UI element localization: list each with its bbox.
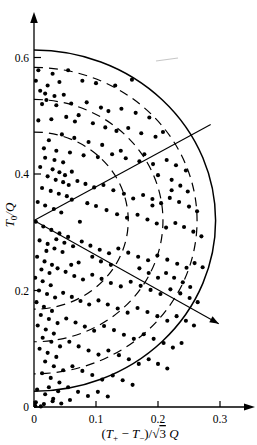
- data-point: [72, 274, 76, 278]
- data-point: [49, 340, 53, 344]
- data-point: [78, 299, 82, 303]
- data-point: [73, 120, 77, 124]
- data-point: [85, 100, 89, 104]
- data-point: [182, 225, 186, 229]
- data-point: [77, 260, 81, 264]
- x-axis-tick-labels: 00.10.20.3: [31, 413, 227, 425]
- data-point: [192, 323, 196, 327]
- data-point: [191, 230, 195, 234]
- data-point: [131, 196, 135, 200]
- data-point: [155, 254, 159, 258]
- data-point: [164, 271, 168, 275]
- data-point: [49, 283, 53, 287]
- data-point: [113, 83, 117, 87]
- data-point: [195, 209, 199, 213]
- data-point: [51, 399, 55, 403]
- data-point: [45, 292, 49, 296]
- data-point: [52, 332, 56, 336]
- x-tick-label: 0.2: [151, 413, 166, 425]
- data-point: [34, 79, 38, 83]
- data-point: [174, 163, 178, 167]
- data-point: [43, 360, 47, 364]
- data-point: [126, 251, 130, 255]
- data-point: [53, 295, 57, 299]
- data-point: [156, 276, 160, 280]
- data-point: [61, 291, 65, 295]
- data-point: [68, 398, 72, 402]
- data-point: [50, 309, 54, 313]
- data-point: [47, 271, 51, 275]
- outer-boundary-arc: [34, 50, 216, 391]
- data-point: [47, 385, 51, 389]
- data-point: [104, 208, 108, 212]
- data-point: [137, 159, 141, 163]
- y-axis-arrowhead: [30, 12, 38, 23]
- data-point: [103, 125, 107, 129]
- data-point: [147, 271, 151, 275]
- data-point: [96, 155, 100, 159]
- data-point: [187, 205, 191, 209]
- data-point: [38, 165, 42, 169]
- data-point: [106, 348, 110, 352]
- data-points: [33, 68, 205, 408]
- data-point: [54, 237, 58, 241]
- data-point: [81, 277, 85, 281]
- data-point: [127, 357, 131, 361]
- data-point: [72, 136, 76, 140]
- data-point: [57, 380, 61, 384]
- data-point: [158, 292, 162, 296]
- data-point: [188, 296, 192, 300]
- data-point: [136, 255, 140, 259]
- data-point: [96, 298, 100, 302]
- data-point: [102, 324, 106, 328]
- data-point: [164, 226, 168, 230]
- smudge-artifact: [156, 58, 178, 61]
- data-point: [54, 103, 58, 107]
- data-point: [77, 113, 81, 117]
- data-point: [100, 277, 104, 281]
- data-point: [90, 373, 94, 377]
- y-axis-ticks: [34, 58, 41, 408]
- x-tick-label: 0.1: [89, 413, 104, 425]
- y-axis-title: T0/Q: [2, 202, 19, 227]
- data-point: [121, 378, 125, 382]
- data-point: [38, 238, 42, 242]
- data-point: [38, 89, 42, 93]
- data-point: [51, 72, 55, 76]
- data-point: [165, 367, 169, 371]
- data-point: [63, 173, 67, 177]
- data-point: [58, 344, 62, 348]
- data-point: [41, 336, 45, 340]
- data-point: [67, 183, 71, 187]
- data-point: [67, 340, 71, 344]
- data-point: [168, 287, 172, 291]
- data-point: [59, 401, 63, 405]
- data-point: [56, 389, 60, 393]
- data-point: [161, 130, 165, 134]
- data-point: [36, 68, 40, 72]
- data-point: [68, 150, 72, 154]
- data-point: [116, 247, 120, 251]
- data-point: [62, 241, 66, 245]
- data-point: [43, 156, 47, 160]
- data-point: [94, 204, 98, 208]
- data-point: [153, 135, 157, 139]
- data-point: [117, 353, 121, 357]
- data-point: [94, 81, 98, 85]
- data-point: [155, 314, 159, 318]
- data-point: [135, 213, 139, 217]
- data-point: [99, 259, 103, 263]
- data-point: [87, 302, 91, 306]
- data-point: [70, 170, 74, 174]
- dashed-arc-1: [34, 67, 197, 373]
- data-point: [64, 316, 68, 320]
- data-point: [43, 92, 47, 96]
- data-point: [111, 188, 115, 192]
- data-point: [65, 194, 69, 198]
- data-point: [106, 302, 110, 306]
- plot-canvas: 00.10.20.3 00.20.40.6 (T+ − T−)/√3 Q T0/…: [0, 0, 257, 445]
- data-point: [130, 78, 134, 82]
- data-point: [147, 357, 151, 361]
- data-point: [145, 217, 149, 221]
- data-point: [119, 149, 123, 153]
